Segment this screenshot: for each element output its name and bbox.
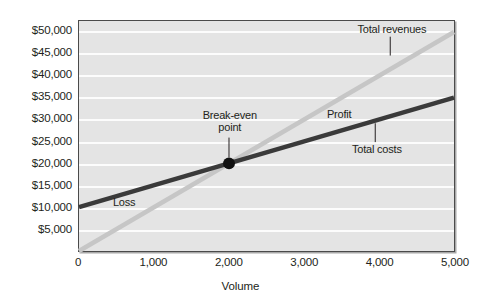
x-axis-tick-label: 4,000 xyxy=(366,256,394,268)
x-axis-tick-label: 2,000 xyxy=(215,256,243,268)
break-even-point-label: Break-evenpoint xyxy=(203,109,257,134)
y-axis-tick-label: $25,000 xyxy=(2,135,72,147)
y-axis-tick-label: $45,000 xyxy=(2,46,72,58)
y-axis-labels: $5,000$10,000$15,000$20,000$25,000$30,00… xyxy=(0,20,72,252)
y-axis-tick-label: $5,000 xyxy=(2,223,72,235)
y-axis-tick-label: $30,000 xyxy=(2,112,72,124)
y-axis-tick-label: $40,000 xyxy=(2,68,72,80)
x-axis-title: Volume xyxy=(0,280,481,292)
series-line-total-revenues xyxy=(79,32,454,251)
x-axis-tick-label: 3,000 xyxy=(290,256,318,268)
y-axis-tick-label: $15,000 xyxy=(2,179,72,191)
break-even-point-marker xyxy=(223,157,235,169)
plot-lines xyxy=(79,21,454,251)
profit-region-label: Profit xyxy=(327,108,351,121)
x-axis-tick-label: 5,000 xyxy=(441,256,469,268)
x-axis-labels: 01,0002,0003,0004,0005,000 xyxy=(78,256,455,274)
total-costs-label: Total costs xyxy=(352,143,402,156)
break-even-label-line2: point xyxy=(203,121,257,134)
x-axis-tick-label: 1,000 xyxy=(140,256,168,268)
y-axis-tick-label: $10,000 xyxy=(2,201,72,213)
y-axis-tick-label: $20,000 xyxy=(2,157,72,169)
break-even-label-line1: Break-even xyxy=(203,109,257,122)
loss-region-label: Loss xyxy=(113,196,135,209)
total-revenues-label: Total revenues xyxy=(358,23,427,36)
x-axis-tick-label: 0 xyxy=(75,256,81,268)
break-even-chart: $5,000$10,000$15,000$20,000$25,000$30,00… xyxy=(0,0,481,307)
y-axis-tick-label: $35,000 xyxy=(2,90,72,102)
y-axis-tick-label: $50,000 xyxy=(2,24,72,36)
plot-area: Break-evenpointLossProfitTotal revenuesT… xyxy=(78,20,455,252)
